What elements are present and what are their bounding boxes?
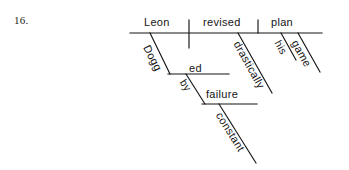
sentence-diagram-canvas: [0, 0, 349, 170]
word-plan: plan: [271, 16, 293, 28]
worksheet-page: 16. Leon revised: [0, 0, 349, 170]
word-leon: Leon: [144, 16, 170, 28]
word-dogged-suffix: ed: [189, 62, 202, 74]
word-revised: revised: [203, 16, 241, 28]
word-failure: failure: [206, 88, 238, 100]
